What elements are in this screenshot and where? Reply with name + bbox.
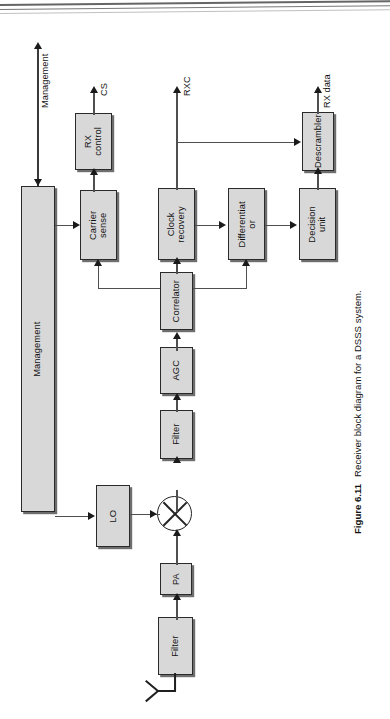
connector-carrier-sense-to-rx-control bbox=[93, 172, 94, 192]
block-carrier-sense: Carriersense bbox=[80, 190, 117, 260]
arrowhead-filter-if-in bbox=[173, 456, 181, 463]
mixer-icon bbox=[157, 496, 192, 531]
arrowhead-clock-recovery-in bbox=[173, 257, 181, 264]
connector-correlator-to-carrier-sense-v bbox=[98, 266, 99, 289]
connector-agc-to-correlator bbox=[176, 337, 177, 351]
block-filter-rf-label: Filter bbox=[170, 635, 180, 656]
block-filter-rf: Filter bbox=[158, 617, 193, 675]
block-management: Management bbox=[21, 186, 55, 512]
block-management-label: Management bbox=[33, 321, 43, 376]
block-filter-if-label: Filter bbox=[171, 424, 181, 445]
signal-label-rxc: RXC bbox=[182, 76, 192, 96]
block-decision-unit-label: Decisionunit bbox=[307, 206, 328, 242]
block-clock-recovery: Clockrecovery bbox=[158, 188, 195, 260]
block-clock-recovery-label: Clockrecovery bbox=[166, 206, 187, 242]
arrowhead-differentiator-in bbox=[219, 221, 226, 229]
arrowhead-mixer-pa-in bbox=[173, 529, 181, 536]
block-filter-if: Filter bbox=[160, 410, 193, 459]
arrowhead-rx-control-in bbox=[90, 168, 98, 175]
arrowhead-management-in bbox=[34, 179, 42, 186]
connector-decision-unit-to-descrambler bbox=[317, 172, 318, 190]
signal-label-management: Management bbox=[40, 54, 50, 108]
arrowhead-cs-out bbox=[90, 86, 98, 93]
arrowhead-decision-unit-in bbox=[290, 221, 297, 229]
arrowhead-differentiator-corr-in bbox=[242, 259, 250, 266]
block-descrambler: Descrambler bbox=[302, 112, 334, 171]
figure-caption-text: Receiver block diagram for a DSSS system… bbox=[352, 290, 363, 477]
signal-label-rx-data: RX data bbox=[322, 74, 332, 108]
figure-caption: Figure 6.11Receiver block diagram for a … bbox=[352, 290, 363, 534]
connector-correlator-to-differentiator-v bbox=[246, 266, 247, 289]
arrowhead-mixer-lo-in bbox=[150, 510, 157, 518]
block-differentiator-label: Differentiator bbox=[236, 201, 257, 247]
connector-management-port bbox=[37, 46, 38, 186]
block-correlator: Correlator bbox=[160, 272, 193, 330]
arrowhead-descrambler-clk-in bbox=[294, 138, 301, 146]
connector-correlator-to-differentiator-h bbox=[193, 288, 247, 289]
connector-differentiator-to-decision-unit bbox=[265, 225, 291, 226]
block-carrier-sense-label: Carriersense bbox=[88, 210, 109, 239]
arrowhead-correlator-in bbox=[173, 332, 181, 339]
block-rx-control-label: RXcontrol bbox=[83, 127, 104, 156]
arrowhead-carrier-sense-in bbox=[73, 221, 80, 229]
block-pa-label: PA bbox=[171, 573, 181, 585]
connector-filter-rf-to-pa bbox=[176, 598, 177, 620]
antenna-icon bbox=[150, 672, 190, 712]
block-agc-label: AGC bbox=[171, 360, 181, 380]
block-descrambler-label: Descrambler bbox=[313, 115, 323, 169]
signal-label-cs: CS bbox=[99, 83, 109, 96]
figure-number: Figure 6.11 bbox=[352, 484, 363, 534]
connector-clock-recovery-to-rxc bbox=[176, 90, 177, 190]
block-lo: LO bbox=[96, 485, 130, 547]
connector-clock-to-descrambler bbox=[176, 142, 298, 143]
block-pa: PA bbox=[160, 563, 192, 595]
arrowhead-rx-data-out bbox=[314, 86, 322, 93]
block-correlator-label: Correlator bbox=[171, 280, 181, 322]
arrowhead-pa-in bbox=[173, 593, 181, 600]
arrowhead-descrambler-in bbox=[314, 167, 322, 174]
block-differentiator: Differentiator bbox=[228, 188, 265, 260]
connector-pa-to-mixer bbox=[176, 533, 177, 565]
connector-clock-recovery-to-differentiator bbox=[195, 225, 219, 226]
connector-rx-control-to-cs bbox=[93, 90, 94, 115]
connector-mixer-to-filter-if bbox=[176, 490, 177, 512]
connector-filter-if-to-agc bbox=[176, 398, 177, 412]
block-agc: AGC bbox=[160, 347, 193, 394]
block-lo-label: LO bbox=[108, 510, 118, 523]
arrowhead-rxc-out bbox=[173, 86, 181, 93]
arrowhead-management-out bbox=[34, 42, 42, 49]
block-rx-control: RXcontrol bbox=[75, 113, 112, 170]
connector-descrambler-to-rx-data bbox=[317, 90, 318, 114]
connector-management-to-carrier-sense bbox=[55, 225, 75, 226]
arrowhead-carrier-sense-corr-in bbox=[94, 259, 102, 266]
connector-correlator-to-carrier-sense-h bbox=[98, 288, 160, 289]
arrowhead-lo-in bbox=[88, 512, 95, 520]
connector-management-to-lo bbox=[55, 516, 90, 517]
arrowhead-agc-in bbox=[173, 393, 181, 400]
block-decision-unit: Decisionunit bbox=[299, 188, 336, 260]
